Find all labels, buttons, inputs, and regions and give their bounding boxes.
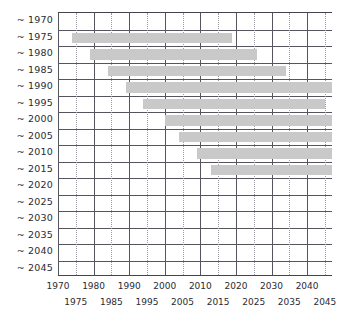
y-axis-tick-label: ~ 1995 bbox=[17, 98, 53, 108]
y-axis-tick-label: ~ 2040 bbox=[17, 246, 53, 256]
horizontal-gridline bbox=[58, 178, 332, 179]
x-axis-tick-label: 2015 bbox=[207, 298, 230, 307]
x-axis-tick-label: 1995 bbox=[136, 298, 159, 307]
y-axis-tick-label: ~ 1990 bbox=[17, 81, 53, 91]
y-axis-tick-label: ~ 2020 bbox=[17, 180, 53, 190]
y-axis-tick-label: ~ 2015 bbox=[17, 164, 53, 174]
y-axis-tick-label: ~ 2030 bbox=[17, 213, 53, 223]
y-axis-tick-label: ~ 1985 bbox=[17, 65, 53, 75]
bar bbox=[72, 33, 232, 43]
x-axis-labels: 1970198019902000201020202030204019751985… bbox=[58, 276, 332, 328]
y-axis-tick-label: ~ 2025 bbox=[17, 197, 53, 207]
x-axis-tick-label: 2045 bbox=[313, 298, 336, 307]
x-axis-tick-label: 1980 bbox=[82, 282, 105, 291]
x-axis-tick-label: 2005 bbox=[171, 298, 194, 307]
horizontal-gridline bbox=[58, 211, 332, 212]
x-axis-tick-label: 2040 bbox=[296, 282, 319, 291]
bar bbox=[108, 66, 286, 76]
bar bbox=[143, 99, 324, 109]
x-axis-tick-label: 2030 bbox=[260, 282, 283, 291]
chart-root: ~ 1970~ 1975~ 1980~ 1985~ 1990~ 1995~ 20… bbox=[0, 0, 340, 330]
bar bbox=[165, 115, 332, 125]
vertical-gridline-minor bbox=[325, 13, 326, 275]
horizontal-gridline bbox=[58, 129, 332, 130]
horizontal-gridline bbox=[58, 244, 332, 245]
bar bbox=[211, 165, 332, 175]
x-axis-tick-label: 1990 bbox=[118, 282, 141, 291]
horizontal-gridline bbox=[58, 145, 332, 146]
vertical-gridline-minor bbox=[289, 13, 290, 275]
y-axis-tick-label: ~ 2045 bbox=[17, 263, 53, 273]
vertical-gridline-major bbox=[307, 13, 308, 275]
x-axis-tick-label: 1985 bbox=[100, 298, 123, 307]
bar bbox=[90, 49, 257, 59]
horizontal-gridline bbox=[58, 79, 332, 80]
y-axis-tick-label: ~ 1975 bbox=[17, 32, 53, 42]
horizontal-gridline bbox=[58, 46, 332, 47]
y-axis-tick-label: ~ 1980 bbox=[17, 48, 53, 58]
vertical-gridline-minor bbox=[76, 13, 77, 275]
x-axis-tick-label: 2035 bbox=[278, 298, 301, 307]
y-axis-tick-label: ~ 2010 bbox=[17, 147, 53, 157]
bar bbox=[197, 148, 332, 158]
horizontal-gridline bbox=[58, 261, 332, 262]
horizontal-gridline bbox=[58, 195, 332, 196]
x-axis-tick-label: 2025 bbox=[242, 298, 265, 307]
vertical-gridline-major bbox=[272, 13, 273, 275]
vertical-gridline-major bbox=[58, 13, 59, 275]
x-axis-tick-label: 2000 bbox=[153, 282, 176, 291]
y-axis-tick-label: ~ 1970 bbox=[17, 15, 53, 25]
horizontal-gridline bbox=[58, 96, 332, 97]
horizontal-gridline bbox=[58, 63, 332, 64]
x-axis-tick-label: 2020 bbox=[224, 282, 247, 291]
x-axis-tick-label: 1975 bbox=[64, 298, 87, 307]
x-axis-tick-label: 2010 bbox=[189, 282, 212, 291]
horizontal-gridline bbox=[58, 112, 332, 113]
y-axis-tick-label: ~ 2000 bbox=[17, 114, 53, 124]
horizontal-gridline bbox=[58, 162, 332, 163]
x-axis-tick-label: 1970 bbox=[47, 282, 70, 291]
horizontal-gridline bbox=[58, 228, 332, 229]
horizontal-gridline bbox=[58, 30, 332, 31]
plot-area bbox=[58, 12, 332, 276]
bar bbox=[179, 132, 332, 142]
y-axis-tick-label: ~ 2035 bbox=[17, 230, 53, 240]
bar bbox=[126, 82, 332, 92]
y-axis-tick-label: ~ 2005 bbox=[17, 131, 53, 141]
y-axis-labels: ~ 1970~ 1975~ 1980~ 1985~ 1990~ 1995~ 20… bbox=[0, 12, 56, 276]
